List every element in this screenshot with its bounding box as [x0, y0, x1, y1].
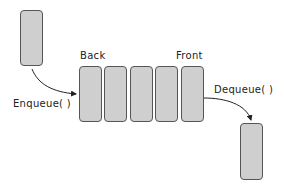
arrows: [0, 0, 285, 190]
enqueue-arrow: [32, 69, 76, 94]
dequeue-arrow: [204, 98, 251, 120]
